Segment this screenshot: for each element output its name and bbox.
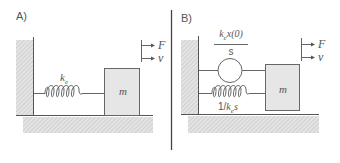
panel-a-label: A) [16,11,27,22]
fraction-numerator: kex(0) [214,29,248,45]
fraction-denominator: s [214,45,248,57]
panel-a-force-label: F [158,39,165,51]
panel-a-velocity-label: v [158,52,163,64]
spring-subscript: e [65,78,68,86]
panel-a-drawing [16,37,155,133]
panel-b-spring-compliance-label: 1/kes [218,102,238,115]
panel-b-source-fraction: kex(0) s [214,29,248,57]
panel-a-floor-hatch [23,117,153,133]
panel-a-spring-constant-label: ke [60,72,68,86]
panel-a-mass-label: m [119,86,127,97]
panel-a-spring [34,86,104,97]
panel-a-arrows [142,40,156,62]
panel-b-velocity-label: v [318,51,323,63]
panel-b-floor-hatch [188,116,319,133]
panel-b-source [199,59,265,83]
panel-b-drawing [181,36,319,133]
panel-b-spring [199,86,265,97]
diagram-canvas [0,0,340,163]
panel-b-wall-hatch [181,40,198,114]
panel-b-mass-label: m [279,84,287,95]
panel-a-wall-hatch [16,40,33,115]
panel-b-arrows [302,38,316,61]
panel-b-force-label: F [318,38,325,50]
panel-b-label: B) [181,13,192,24]
